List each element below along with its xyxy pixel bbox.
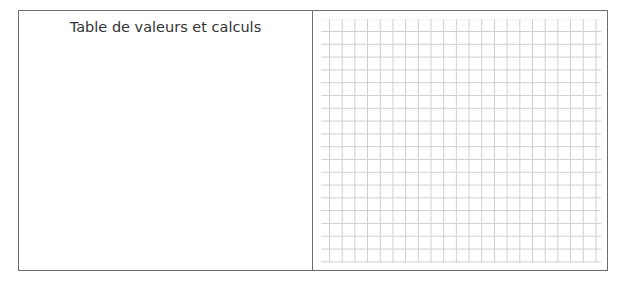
worksheet-frame: Table de valeurs et calculs bbox=[18, 10, 608, 271]
panel-title: Table de valeurs et calculs bbox=[19, 19, 312, 35]
values-table-panel: Table de valeurs et calculs bbox=[19, 11, 312, 270]
graph-paper-grid bbox=[321, 19, 601, 263]
panel-divider bbox=[312, 11, 313, 270]
